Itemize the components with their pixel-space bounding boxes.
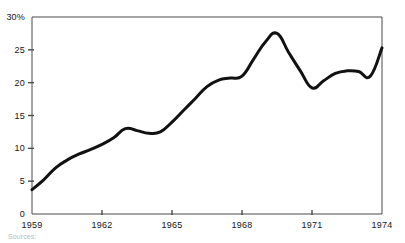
source-note: Sources: [8,233,36,241]
y-tick-label: 10 [0,143,25,153]
x-tick-label: 1962 [72,220,132,230]
x-tick-label: 1965 [142,220,202,230]
y-tick-label: 30% [0,12,25,22]
x-tick-label: 1968 [212,220,272,230]
plot-frame [32,17,382,214]
y-tick-label: 5 [0,176,25,186]
y-tick-label: 15 [0,111,25,121]
x-tick-label: 1959 [2,220,62,230]
line-chart-figure: 30%2520151050 195919621965196819711974 S… [0,0,405,243]
y-tick-label: 0 [0,209,25,219]
x-tick-label: 1971 [282,220,342,230]
chart-canvas [0,0,405,243]
data-series-line [32,33,382,190]
y-tick-label: 20 [0,78,25,88]
x-tick-label: 1974 [352,220,405,230]
y-axis-ticks [28,50,34,181]
y-tick-label: 25 [0,45,25,55]
